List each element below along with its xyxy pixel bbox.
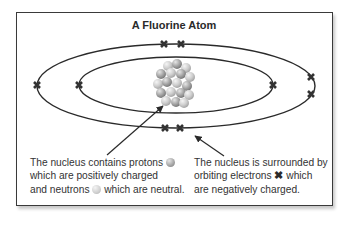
nucleus xyxy=(153,59,195,108)
nucleus-arrow xyxy=(107,106,163,155)
neutron-icon xyxy=(92,185,101,194)
electron-caption: The nucleus is surrounded by orbiting el… xyxy=(194,156,328,196)
electron-arrow xyxy=(195,136,224,156)
electron-symbol-icon: ✖ xyxy=(274,169,283,181)
nucleus-caption: The nucleus contains protons which are p… xyxy=(30,156,185,196)
proton-icon xyxy=(166,158,175,167)
